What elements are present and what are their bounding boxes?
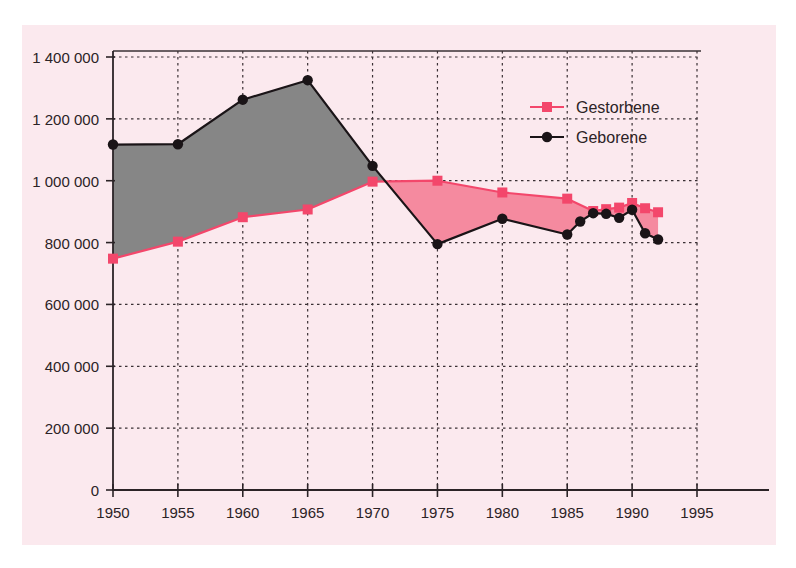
data-point-geborene-1960 [238,94,248,104]
data-point-geborene-1988 [601,209,611,219]
data-point-gestorbene-1992 [653,207,663,217]
x-tick-label: 1950 [96,504,129,521]
y-tick-label: 200 000 [45,420,99,437]
line-area-chart: 0200 000400 000600 000800 0001 000 0001 … [22,25,776,545]
data-point-geborene-1989 [614,213,624,223]
y-axis-tick-labels: 0200 000400 000600 000800 0001 000 0001 … [32,49,99,499]
chart-figure: 0200 000400 000600 000800 0001 000 0001 … [22,25,776,545]
legend-label-gestorbene: Gestorbene [576,99,660,116]
x-tick-label: 1965 [291,504,324,521]
x-tick-label: 1985 [551,504,584,521]
x-tick-label: 1955 [161,504,194,521]
data-point-geborene-1985 [562,229,572,239]
y-tick-label: 600 000 [45,296,99,313]
data-point-gestorbene-1955 [173,237,183,247]
data-point-gestorbene-1950 [108,254,118,264]
y-tick-label: 400 000 [45,358,99,375]
chart-legend: GestorbeneGeborene [530,99,660,146]
x-tick-label: 1995 [680,504,713,521]
axis-ticks [106,57,697,497]
data-point-geborene-1970 [367,161,377,171]
x-tick-label: 1975 [421,504,454,521]
data-point-geborene-1950 [108,139,118,149]
data-point-gestorbene-1975 [432,176,442,186]
axes [112,51,769,491]
data-point-gestorbene-1985 [562,194,572,204]
data-point-geborene-1980 [497,214,507,224]
data-point-geborene-1955 [173,139,183,149]
legend-marker-circle-1 [542,132,552,142]
y-tick-label: 0 [91,482,99,499]
data-point-geborene-1990 [627,205,637,215]
x-tick-label: 1970 [356,504,389,521]
data-point-gestorbene-1970 [368,177,378,187]
gridlines [113,51,701,490]
y-tick-label: 1 400 000 [32,49,99,66]
data-point-gestorbene-1960 [238,212,248,222]
data-point-geborene-1975 [432,239,442,249]
legend-label-geborene: Geborene [576,129,647,146]
data-point-gestorbene-1980 [497,187,507,197]
y-tick-label: 1 200 000 [32,111,99,128]
data-point-gestorbene-1989 [614,203,624,213]
x-tick-label: 1990 [615,504,648,521]
y-tick-label: 800 000 [45,235,99,252]
y-tick-label: 1 000 000 [32,173,99,190]
data-point-geborene-1986 [575,216,585,226]
x-axis-tick-labels: 1950195519601965197019751980198519901995 [96,504,713,521]
x-tick-label: 1980 [486,504,519,521]
data-point-geborene-1965 [302,75,312,85]
data-point-geborene-1992 [653,234,663,244]
data-point-geborene-1991 [640,228,650,238]
legend-marker-square-0 [542,102,552,112]
data-point-gestorbene-1965 [303,204,313,214]
data-point-gestorbene-1991 [640,203,650,213]
data-point-geborene-1987 [588,208,598,218]
area-births-exceed-deaths [113,80,386,258]
x-tick-label: 1960 [226,504,259,521]
